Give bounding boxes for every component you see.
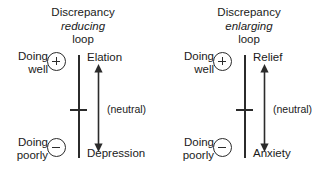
panel-title-line-3: loop [0,33,166,47]
performance-label-high-line-1: Doing [2,50,48,63]
affect-label-positive: Elation [87,51,122,64]
performance-label-high-line-2: well [168,63,214,76]
neutral-midpoint-label: (neutral) [273,103,312,115]
panel-title-line-2: reducing [0,20,166,34]
performance-label-high: Doing well [2,50,48,75]
minus-icon-stroke [218,147,226,148]
plus-icon-vertical-stroke [222,57,223,65]
affect-label-positive: Relief [253,51,282,64]
axis-midpoint-tick [236,109,253,111]
performance-label-high-line-2: well [2,63,48,76]
minus-icon-stroke [52,147,60,148]
negative-sign-circle [213,138,232,157]
performance-label-low: Doing poorly [2,136,48,161]
panel-title-line-1: Discrepancy [0,6,166,20]
panel-discrepancy-reducing: Discrepancy reducing loop Doing well Doi… [0,0,166,173]
double-headed-arrow-icon [258,64,271,152]
positive-sign-circle [47,52,66,71]
plus-icon-vertical-stroke [56,57,57,65]
negative-sign-circle [47,138,66,157]
neutral-midpoint-label: (neutral) [107,103,146,115]
discrepancy-loops-figure: Discrepancy reducing loop Doing well Doi… [0,0,332,173]
performance-label-high-line-1: Doing [168,50,214,63]
performance-label-low-line-2: poorly [2,149,48,162]
panel-title-line-2: enlarging [166,20,332,34]
positive-sign-circle [213,52,232,71]
panel-discrepancy-enlarging: Discrepancy enlarging loop Doing well Do… [166,0,332,173]
performance-label-low: Doing poorly [168,136,214,161]
performance-label-low-line-1: Doing [168,136,214,149]
double-headed-arrow-icon [92,64,105,152]
axis-midpoint-tick [70,109,87,111]
panel-title-line-3: loop [166,33,332,47]
performance-label-low-line-2: poorly [168,149,214,162]
vertical-axis-line [244,55,246,158]
performance-label-low-line-1: Doing [2,136,48,149]
panel-title-line-1: Discrepancy [166,6,332,20]
vertical-axis-line [78,55,80,158]
panel-title: Discrepancy reducing loop [0,6,166,47]
performance-label-high: Doing well [168,50,214,75]
panel-title: Discrepancy enlarging loop [166,6,332,47]
